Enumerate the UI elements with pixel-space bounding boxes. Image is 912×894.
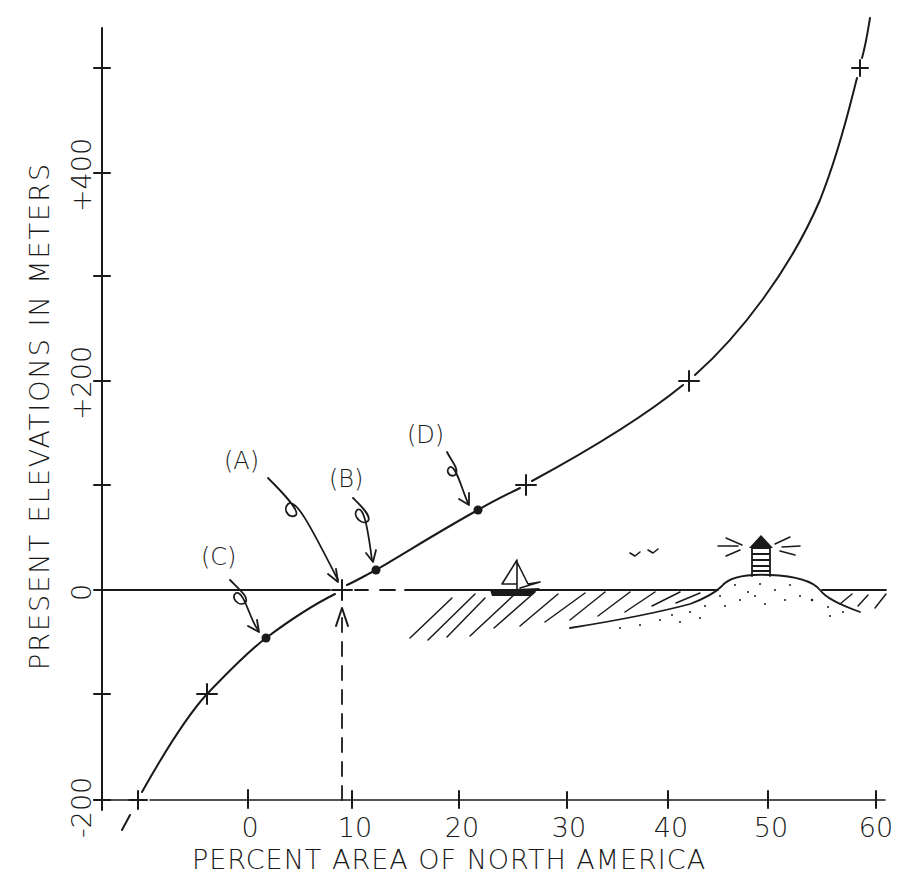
x-axis xyxy=(94,790,885,808)
cross-markers xyxy=(129,60,868,809)
x-tick-30: 30 xyxy=(552,812,586,843)
annotation-a: (A) xyxy=(224,447,259,475)
ocean-hatching xyxy=(410,592,886,640)
hill-with-lighthouse xyxy=(570,535,860,629)
y-tick-zero: 0 xyxy=(66,584,97,601)
hypsographic-chart xyxy=(0,0,912,894)
x-tick-20: 20 xyxy=(445,812,479,843)
x-tick-50: 50 xyxy=(754,812,788,843)
x-tick-40: 40 xyxy=(654,812,688,843)
birds xyxy=(630,549,658,556)
dashed-arrow xyxy=(336,608,348,800)
annotation-b: (B) xyxy=(329,465,363,493)
point-d xyxy=(474,506,483,515)
x-tick-60: 60 xyxy=(859,812,893,843)
lighthouse xyxy=(752,548,770,576)
y-tick-plus-200: +200 xyxy=(66,346,97,420)
y-tick-plus-400: +400 xyxy=(66,138,97,212)
point-b xyxy=(372,566,381,575)
annotation-c: (C) xyxy=(201,543,236,571)
point-c xyxy=(262,634,271,643)
y-tick-minus-200: -200 xyxy=(66,777,97,838)
x-tick-0: 0 xyxy=(241,812,258,843)
y-axis-label: PRESENT ELEVATIONS IN METERS xyxy=(24,162,55,670)
hypsographic-curve xyxy=(122,18,870,830)
annotation-d: (D) xyxy=(407,421,444,449)
x-axis-label: PERCENT AREA OF NORTH AMERICA xyxy=(192,844,706,875)
x-tick-10: 10 xyxy=(338,812,372,843)
sailboat xyxy=(490,560,540,596)
